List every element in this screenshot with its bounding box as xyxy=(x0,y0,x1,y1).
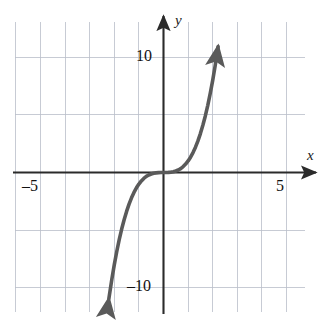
cubic-function-plot xyxy=(0,0,328,327)
y-axis-label: y xyxy=(175,13,182,28)
x-tick-label-5: 5 xyxy=(276,178,284,194)
y-tick-label-neg10: –10 xyxy=(127,278,151,294)
x-tick-label-neg5: –5 xyxy=(22,178,38,194)
graph-figure: y x 10 –10 –5 5 xyxy=(0,0,328,327)
x-axis-label: x xyxy=(307,148,314,163)
y-tick-label-10: 10 xyxy=(136,48,152,64)
